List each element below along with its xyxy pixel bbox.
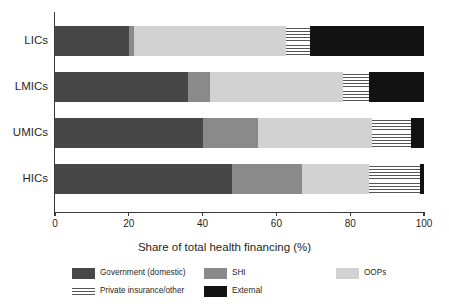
legend-label-private-insurance: Private insurance/other (100, 287, 184, 295)
bar-row (55, 26, 424, 56)
x-tick-mark-20 (128, 212, 129, 216)
legend-label-external: External (232, 287, 262, 295)
x-axis-title: Share of total health financing (%) (0, 241, 449, 253)
bar-segment-oops (210, 72, 343, 102)
bar-segment-oops (258, 118, 372, 148)
stacked-bar-chart: LICs LMICs UMICs HICs (0, 0, 449, 308)
bar-segment-government (55, 72, 188, 102)
bar-segment-private-insurance (372, 118, 411, 148)
bar-segment-government (55, 164, 232, 194)
bar-segment-shi (203, 118, 258, 148)
x-tick-label-20: 20 (123, 218, 134, 229)
bar-segment-shi (232, 164, 302, 194)
bar-segment-private-insurance (369, 164, 421, 194)
y-axis-label-hics: HICs (0, 173, 48, 185)
bar-segment-private-insurance (343, 72, 369, 102)
legend-swatch-private-insurance-icon (72, 286, 95, 297)
x-tick-mark-40 (202, 212, 203, 216)
x-tick-label-80: 80 (345, 218, 356, 229)
bar-segment-private-insurance (286, 26, 310, 56)
x-tick-label-40: 40 (197, 218, 208, 229)
bar-segment-government (55, 118, 203, 148)
legend-item-shi: SHI (204, 268, 246, 279)
x-tick-mark-80 (350, 212, 351, 216)
legend-swatch-oops-icon (336, 268, 359, 279)
x-tick-label-0: 0 (52, 218, 58, 229)
x-tick-mark-100 (423, 212, 424, 216)
legend-item-oops: OOPs (336, 268, 386, 279)
bar-row (55, 118, 424, 148)
x-tick-label-60: 60 (271, 218, 282, 229)
x-axis-line (54, 212, 425, 213)
bar-segment-oops (134, 26, 285, 56)
bar-segment-shi (188, 72, 210, 102)
chart-legend: Government (domestic) SHI OOPs Private i… (0, 266, 449, 306)
legend-item-external: External (204, 286, 262, 297)
y-axis-label-umics: UMICs (0, 127, 48, 139)
legend-item-private-insurance: Private insurance/other (72, 286, 184, 297)
legend-item-government: Government (domestic) (72, 268, 186, 279)
legend-label-oops: OOPs (364, 269, 386, 277)
bar-segment-external (420, 164, 424, 194)
bar-row (55, 72, 424, 102)
x-tick-mark-0 (54, 212, 55, 216)
legend-label-government: Government (domestic) (100, 269, 186, 277)
legend-swatch-government-icon (72, 268, 95, 279)
x-tick-mark-60 (276, 212, 277, 216)
bar-row (55, 164, 424, 194)
x-tick-label-100: 100 (416, 218, 433, 229)
legend-label-shi: SHI (232, 269, 246, 277)
legend-swatch-external-icon (204, 286, 227, 297)
bar-segment-external (310, 26, 424, 56)
bar-segment-external (411, 118, 424, 148)
y-axis-label-lics: LICs (0, 35, 48, 47)
legend-swatch-shi-icon (204, 268, 227, 279)
plot-area (55, 14, 424, 210)
bar-segment-oops (302, 164, 368, 194)
bar-segment-external (369, 72, 424, 102)
bar-segment-government (55, 26, 129, 56)
y-axis-label-lmics: LMICs (0, 81, 48, 93)
